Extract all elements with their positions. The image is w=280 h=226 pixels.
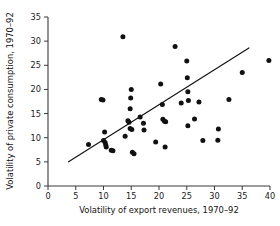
data-point [173,44,178,49]
data-point [142,127,147,132]
x-tick-label: 25 [182,191,192,201]
data-point [179,100,184,105]
data-point [192,116,197,121]
data-point [163,119,168,124]
data-point [141,121,146,126]
plot-svg: 0510152025303540 05101520253035 Volatili… [0,0,280,226]
y-tick-label: 0 [36,181,41,191]
data-point [127,120,132,125]
data-point [104,144,109,149]
x-tick-label: 10 [98,191,108,201]
x-tick-label: 20 [154,191,164,201]
data-point [196,99,201,104]
data-point [240,70,245,75]
x-axis-title: Volatility of export revenues, 1970–92 [79,205,239,215]
data-point [100,98,105,103]
x-tick-label: 40 [265,191,275,201]
data-point [160,102,165,107]
x-tick-label: 15 [126,191,136,201]
y-tick-label: 15 [31,109,41,119]
data-point [153,140,158,145]
scatter-chart-figure: 0510152025303540 05101520253035 Volatili… [0,0,280,226]
data-point [129,87,134,92]
trend-line-group [69,48,249,162]
trend-line [69,48,249,162]
x-tick-label: 5 [73,191,78,201]
data-point [120,34,125,39]
x-axis-ticks: 0510152025303540 [45,186,275,201]
data-point [215,138,220,143]
data-point [226,97,231,102]
data-point [185,75,190,80]
data-point [138,114,143,119]
data-point [129,127,134,132]
data-point [128,96,133,101]
data-point [132,151,137,156]
y-tick-label: 35 [31,12,41,22]
axes-group [48,17,270,186]
y-tick-label: 30 [31,36,41,46]
data-point [186,98,191,103]
data-points-group [86,34,271,156]
data-point [185,89,190,94]
data-point [110,148,115,153]
x-tick-label: 35 [237,191,247,201]
y-tick-label: 25 [31,60,41,70]
y-tick-label: 20 [31,84,41,94]
x-tick-label: 30 [209,191,219,201]
data-point [86,142,91,147]
data-point [128,106,133,111]
data-point [102,129,107,134]
y-tick-label: 10 [31,133,41,143]
data-point [184,58,189,63]
data-point [266,58,271,63]
data-point [123,134,128,139]
data-point [158,82,163,87]
data-point [200,138,205,143]
y-axis-title: Volatility of private consumption, 1970–… [5,12,15,190]
data-point [163,144,168,149]
data-point [185,123,190,128]
x-tick-label: 0 [45,191,50,201]
data-point [216,127,221,132]
y-tick-label: 5 [36,157,41,167]
y-axis-ticks: 05101520253035 [31,12,48,191]
